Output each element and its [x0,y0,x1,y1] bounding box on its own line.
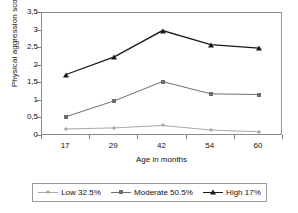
y-axis-tick-labels: 3,532,521,510,50 [14,0,38,145]
data-point-marker [112,99,116,103]
x-axis-title: Age in months [41,155,282,164]
series-line [66,31,259,75]
x-axis-tick [41,135,42,139]
plot-series-layer [42,13,281,134]
series-line [66,82,259,117]
x-axis-tick-label: 60 [243,141,273,150]
legend-item: Moderate 50.5% [110,188,194,197]
x-axis-tick-label: 42 [147,141,177,150]
data-point-marker [208,42,214,47]
chart-legend: Low 32.5%Moderate 50.5%High 17% [32,183,267,202]
x-axis-tick [137,135,138,139]
data-point-marker [63,72,69,77]
x-axis-tick [282,135,283,139]
plot-area [41,12,282,135]
data-point-marker [209,92,213,96]
legend-label: High 17% [226,188,261,197]
x-axis-tick-label: 17 [50,141,80,150]
data-point-marker [111,54,117,59]
x-axis-tick [89,135,90,139]
data-point-marker [257,93,261,97]
x-axis-tick-label: 29 [98,141,128,150]
x-axis-tick [234,135,235,139]
legend-marker-square-icon [111,188,131,197]
legend-marker-diamond-icon [38,188,58,197]
data-point-marker [161,80,165,84]
legend-item: Low 32.5% [37,188,102,197]
legend-marker-triangle-icon [203,188,223,197]
data-point-marker [160,28,166,33]
legend-label: Low 32.5% [61,188,101,197]
x-axis-tick-label: 54 [195,141,225,150]
x-axis-tick [186,135,187,139]
legend-label: Moderate 50.5% [134,188,193,197]
data-point-marker [256,46,262,51]
data-point-marker [64,115,68,119]
line-chart: Physical aggression score 3,532,521,510,… [0,0,298,213]
legend-item: High 17% [202,188,262,197]
